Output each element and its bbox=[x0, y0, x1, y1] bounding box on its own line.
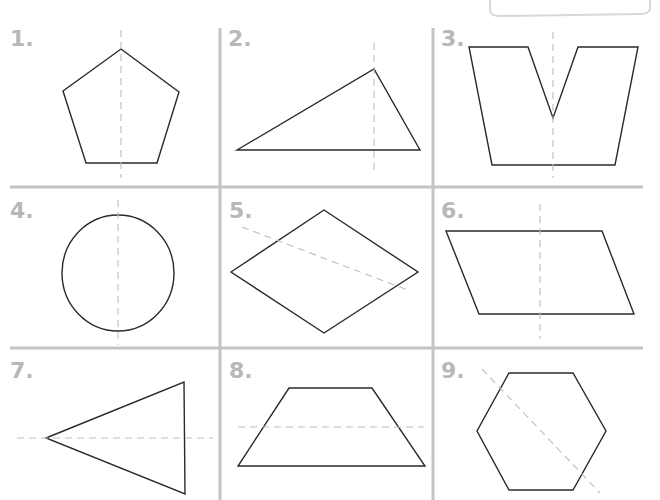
panel-number-label: 5. bbox=[229, 198, 253, 223]
panel-number-label: 1. bbox=[10, 26, 34, 51]
triangle-shape bbox=[237, 69, 420, 150]
panel-5: 5. bbox=[229, 198, 418, 333]
panel-1: 1. bbox=[10, 26, 179, 178]
panel-4: 4. bbox=[10, 198, 174, 345]
panel-2: 2. bbox=[228, 26, 420, 174]
panel-number-label: 4. bbox=[10, 198, 34, 223]
panel-6: 6. bbox=[441, 198, 634, 339]
panel-3: 3. bbox=[441, 26, 638, 178]
panel-number-label: 7. bbox=[10, 358, 34, 383]
symmetry-worksheet: 1. 2. 3. 4. 5. 6. 7. 8. bbox=[0, 0, 660, 500]
panel-number-label: 2. bbox=[228, 26, 252, 51]
panel-8: 8. bbox=[229, 358, 425, 466]
panel-9: 9. bbox=[441, 358, 606, 493]
header-tab-decoration bbox=[490, 0, 650, 16]
symmetry-line bbox=[482, 369, 600, 493]
panel-number-label: 8. bbox=[229, 358, 253, 383]
rhombus-shape bbox=[231, 210, 418, 333]
grid-lines bbox=[10, 28, 643, 500]
panel-number-label: 9. bbox=[441, 358, 465, 383]
panel-number-label: 3. bbox=[441, 26, 465, 51]
panel-7: 7. bbox=[10, 358, 213, 494]
symmetry-line bbox=[242, 227, 410, 291]
panel-number-label: 6. bbox=[441, 198, 465, 223]
